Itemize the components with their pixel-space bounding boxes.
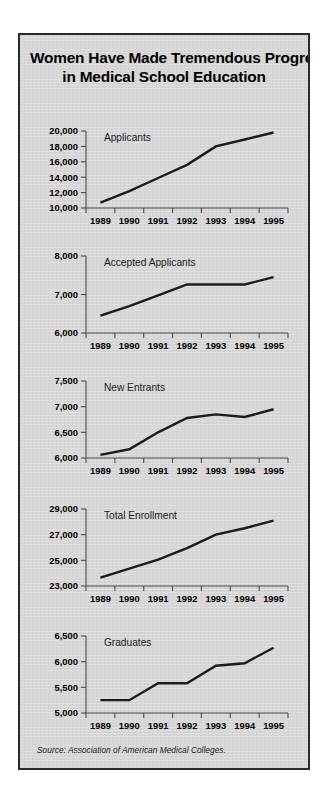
figure-panel: Women Have Made Tremendous Progress in M… [18, 33, 310, 770]
y-tick-label: 10,000 [49, 202, 78, 213]
x-tick-label: 1994 [234, 720, 256, 731]
x-tick-label: 1995 [263, 340, 284, 351]
x-tick-label: 1990 [119, 215, 140, 226]
chart-plot-area: 6,0006,5007,0007,50019891990199119921993… [20, 373, 310, 481]
x-tick-label: 1991 [148, 720, 169, 731]
x-tick-label: 1993 [205, 340, 226, 351]
y-tick-label: 27,000 [49, 529, 78, 540]
source-note: Source: Association of American Medical … [37, 745, 226, 755]
x-tick-label: 1990 [119, 340, 140, 351]
chart-graduates: 5,0005,5006,0006,50019891990199119921993… [20, 628, 310, 736]
x-tick-label: 1992 [177, 720, 198, 731]
x-tick-label: 1991 [148, 593, 169, 604]
y-tick-label: 7,000 [55, 401, 78, 412]
x-tick-label: 1994 [234, 593, 256, 604]
chart-plot-area: 23,00025,00027,00029,0001989199019911992… [20, 501, 310, 609]
chart-applicants: 10,00012,00014,00016,00018,00020,0001989… [20, 123, 310, 231]
x-tick-label: 1989 [90, 215, 111, 226]
page-title-line-2: in Medical School Education [30, 67, 298, 86]
y-tick-label: 6,500 [55, 427, 78, 438]
x-tick-label: 1990 [119, 465, 140, 476]
x-tick-label: 1994 [234, 465, 256, 476]
x-tick-label: 1994 [234, 215, 256, 226]
y-tick-label: 7,000 [55, 289, 78, 300]
x-tick-label: 1989 [90, 720, 111, 731]
y-tick-label: 12,000 [49, 187, 78, 198]
y-tick-label: 8,000 [55, 250, 78, 261]
x-tick-label: 1990 [119, 720, 140, 731]
x-tick-label: 1992 [177, 465, 198, 476]
x-tick-label: 1992 [177, 215, 198, 226]
x-tick-label: 1993 [205, 215, 226, 226]
x-tick-label: 1995 [263, 215, 284, 226]
chart-new-entrants: 6,0006,5007,0007,50019891990199119921993… [20, 373, 310, 481]
x-tick-label: 1989 [90, 593, 111, 604]
data-line-1 [100, 277, 273, 315]
chart-total-enrollment: 23,00025,00027,00029,0001989199019911992… [20, 501, 310, 609]
x-tick-label: 1993 [205, 593, 226, 604]
x-tick-label: 1993 [205, 720, 226, 731]
y-tick-label: 7,500 [55, 375, 78, 386]
x-tick-label: 1989 [90, 465, 111, 476]
page-title-line-1: Women Have Made Tremendous Progress [30, 48, 298, 67]
data-line-0 [100, 133, 273, 203]
x-tick-label: 1994 [234, 340, 256, 351]
y-tick-label: 23,000 [49, 580, 78, 591]
y-tick-label: 29,000 [49, 503, 78, 514]
y-tick-label: 6,000 [55, 327, 78, 338]
data-line-3 [100, 521, 273, 578]
x-tick-label: 1991 [148, 215, 169, 226]
x-tick-label: 1992 [177, 340, 198, 351]
series-label: New Entrants [104, 382, 165, 393]
x-tick-label: 1990 [119, 593, 140, 604]
x-tick-label: 1993 [205, 465, 226, 476]
x-tick-label: 1991 [148, 465, 169, 476]
y-tick-label: 25,000 [49, 555, 78, 566]
x-tick-label: 1995 [263, 465, 284, 476]
y-tick-label: 5,500 [55, 682, 78, 693]
x-tick-label: 1991 [148, 340, 169, 351]
series-label: Total Enrollment [104, 510, 177, 521]
series-label: Graduates [104, 637, 152, 648]
data-line-2 [100, 409, 273, 455]
y-tick-label: 16,000 [49, 156, 78, 167]
y-tick-label: 6,000 [55, 656, 78, 667]
y-tick-label: 18,000 [49, 141, 78, 152]
y-tick-label: 6,500 [55, 630, 78, 641]
chart-plot-area: 6,0007,0008,0001989199019911992199319941… [20, 248, 310, 356]
y-tick-label: 14,000 [49, 172, 78, 183]
chart-plot-area: 5,0005,5006,0006,50019891990199119921993… [20, 628, 310, 736]
page-title: Women Have Made Tremendous Progress in M… [30, 48, 298, 86]
y-tick-label: 6,000 [55, 452, 78, 463]
chart-accepted-applicants: 6,0007,0008,0001989199019911992199319941… [20, 248, 310, 356]
x-tick-label: 1992 [177, 593, 198, 604]
y-tick-label: 5,000 [55, 707, 78, 718]
series-label: Applicants [104, 132, 151, 143]
data-line-4 [100, 648, 273, 700]
y-tick-label: 20,000 [49, 125, 78, 136]
series-label: Accepted Applicants [104, 257, 196, 268]
x-tick-label: 1995 [263, 593, 284, 604]
x-tick-label: 1995 [263, 720, 284, 731]
x-tick-label: 1989 [90, 340, 111, 351]
chart-plot-area: 10,00012,00014,00016,00018,00020,0001989… [20, 123, 310, 231]
